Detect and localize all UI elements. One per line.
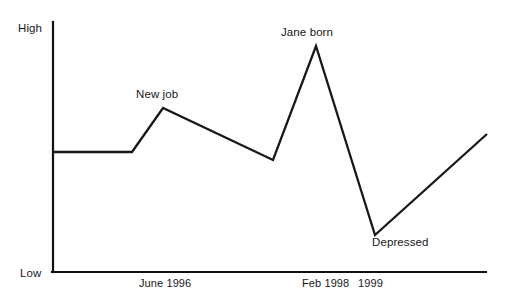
annotation-new-job: New job [136, 89, 178, 101]
x-tick-label-june-1996: June 1996 [139, 278, 191, 289]
annotation-jane-born: Jane born [281, 27, 333, 39]
annotation-depressed: Depressed [372, 237, 429, 249]
x-tick-label-1999: 1999 [358, 278, 383, 289]
chart-canvas [0, 0, 510, 301]
y-axis-high-label: High [18, 23, 42, 35]
y-axis-low-label: Low [20, 268, 41, 280]
mood-timeline-chart: High Low New job Jane born Depressed Jun… [0, 0, 510, 301]
x-tick-label-feb-1998: Feb 1998 [302, 278, 349, 289]
mood-series-line [53, 46, 487, 235]
